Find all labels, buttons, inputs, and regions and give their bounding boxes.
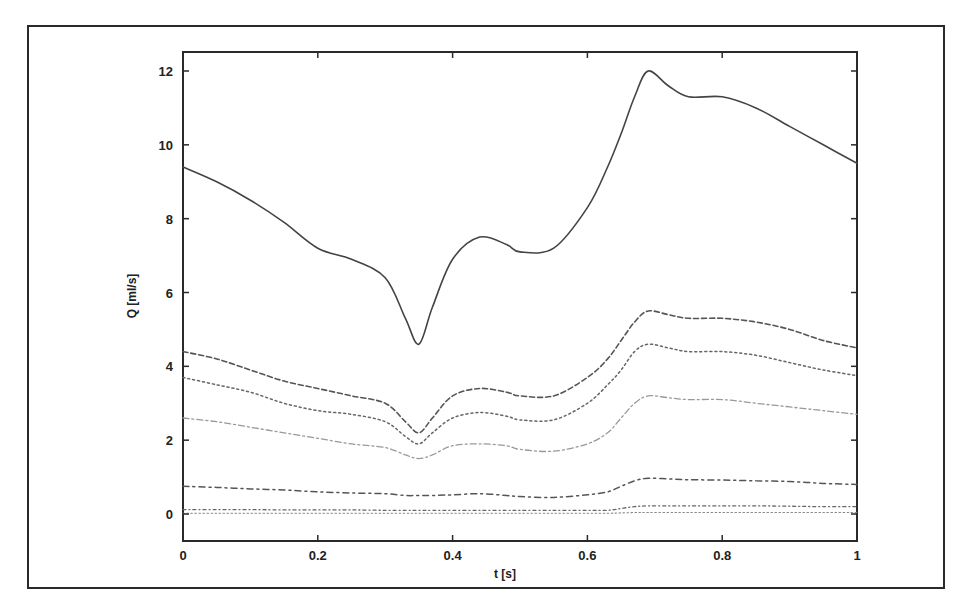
ticks-layer: 00.20.40.60.81024681012 xyxy=(159,52,861,563)
axes-box xyxy=(183,52,857,541)
series-total xyxy=(183,71,857,345)
y-tick-label: 12 xyxy=(159,64,173,79)
series-branch-4 xyxy=(183,478,857,497)
x-axis-label: t [s] xyxy=(494,567,516,581)
y-tick-label: 8 xyxy=(166,212,173,227)
x-tick-label: 0.8 xyxy=(713,548,731,563)
y-tick-label: 0 xyxy=(166,507,173,522)
series-branch-5 xyxy=(183,506,857,511)
plot-area xyxy=(183,52,857,541)
x-tick-label: 0.6 xyxy=(578,548,596,563)
x-tick-label: 0.2 xyxy=(309,548,327,563)
x-tick-label: 1 xyxy=(853,548,860,563)
y-axis-label: Q [ml/s] xyxy=(125,274,139,319)
y-tick-label: 4 xyxy=(166,359,174,374)
series-layer xyxy=(183,71,857,513)
series-branch-1 xyxy=(183,311,857,433)
x-tick-label: 0 xyxy=(179,548,186,563)
y-tick-label: 10 xyxy=(159,138,173,153)
line-chart: 00.20.40.60.81024681012 t [s] Q [ml/s] xyxy=(0,0,966,613)
series-branch-2 xyxy=(183,344,857,444)
series-branch-6 xyxy=(183,513,857,514)
y-tick-label: 2 xyxy=(166,433,173,448)
y-tick-label: 6 xyxy=(166,286,173,301)
x-tick-label: 0.4 xyxy=(444,548,463,563)
series-branch-3 xyxy=(183,396,857,459)
